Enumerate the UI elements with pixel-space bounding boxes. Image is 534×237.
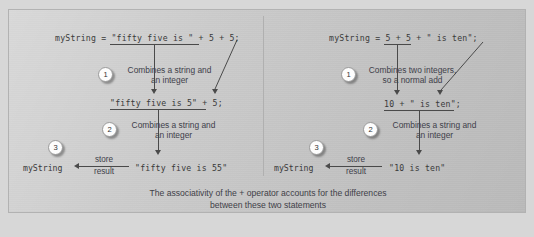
left-result-variable: myString [23, 163, 62, 173]
left-step-1-badge: 1 [98, 67, 113, 82]
left-result-value: "fifty five is 55" [135, 163, 227, 173]
left-arrow-down-2 [155, 150, 161, 155]
left-step-2-badge: 2 [102, 122, 117, 137]
right-step-3-badge: 3 [309, 140, 324, 155]
right-store-label-top: store [330, 155, 382, 165]
right-store-label-bottom: result [330, 167, 382, 177]
right-example: myString = 5 + 5 + " is ten"; 1 Combines… [265, 10, 520, 213]
right-arrow-down-1 [394, 90, 400, 95]
left-step-2-note: Combines a string and an integer [121, 120, 226, 141]
left-intermediate-line: "fifty five is 5" + 5; [110, 98, 223, 108]
right-step-1-note: Combines two integers, so a normal add [360, 65, 465, 86]
right-arrow-down-2 [416, 150, 422, 155]
left-arrow-down-1b [212, 89, 218, 94]
right-arrow-down-1b [437, 90, 443, 95]
right-result-variable: myString [274, 163, 313, 173]
left-step-1-note: Combines a string and an integer [117, 65, 222, 86]
right-step-2-badge: 2 [363, 122, 378, 137]
left-example: myString = "fifty five is " + 5 + 5; 1 C… [9, 10, 264, 213]
left-step-3-badge: 3 [48, 140, 63, 155]
right-statement-line: myString = 5 + 5 + " is ten"; [329, 33, 478, 43]
left-arrow-down-1 [151, 89, 157, 94]
right-step-1-badge: 1 [341, 67, 356, 82]
right-intermediate-line: 10 + " is ten"; [384, 99, 461, 109]
diagram-panel: myString = "fifty five is " + 5 + 5; 1 C… [8, 9, 526, 213]
right-step-2-note: Combines a string and an integer [382, 120, 487, 141]
figure-associativity-diagram: myString = "fifty five is " + 5 + 5; 1 C… [0, 0, 534, 237]
right-result-value: "10 is ten" [389, 163, 445, 173]
left-store-label-top: store [79, 155, 129, 165]
figure-caption: The associativity of the + operator acco… [9, 188, 526, 211]
left-statement-line: myString = "fifty five is " + 5 + 5; [55, 33, 240, 43]
left-store-label-bottom: result [79, 167, 129, 177]
